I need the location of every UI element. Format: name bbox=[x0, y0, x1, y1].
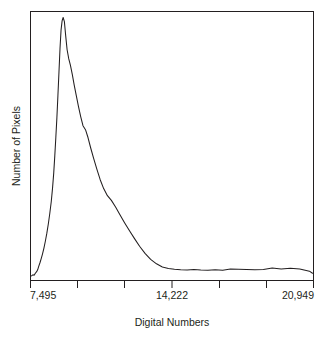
histogram-curve-svg bbox=[31, 12, 313, 280]
x-tick-label-min: 7,495 bbox=[30, 289, 56, 301]
plot-area bbox=[30, 11, 314, 281]
distribution-curve bbox=[32, 18, 313, 276]
x-tick-label-max: 20,949 bbox=[282, 289, 314, 301]
x-tick-label-mid: 14,222 bbox=[156, 289, 188, 301]
histogram-figure: 7,495 14,222 20,949 Digital Numbers Numb… bbox=[0, 0, 323, 338]
tick-group bbox=[31, 281, 314, 288]
y-axis-title: Number of Pixels bbox=[6, 11, 26, 281]
x-axis-title: Digital Numbers bbox=[30, 316, 314, 328]
